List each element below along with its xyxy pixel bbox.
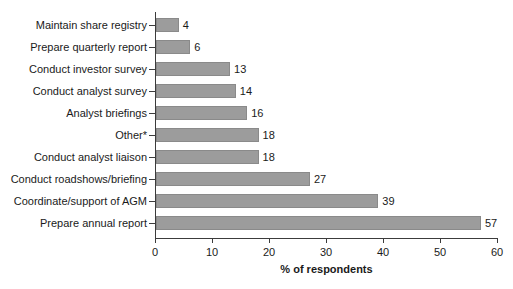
category-label: Maintain share registry [36,16,147,34]
bar [156,150,259,164]
x-axis-title: % of respondents [155,263,498,275]
category-label: Prepare quarterly report [30,38,147,56]
category-label: Prepare annual report [40,214,147,232]
bar [156,194,378,208]
category-label: Conduct analyst survey [33,82,147,100]
bar-row: Prepare annual report57 [0,216,513,230]
value-tick [383,238,384,243]
bar-row: Prepare quarterly report6 [0,40,513,54]
category-tick [149,201,155,202]
value-tick [212,238,213,243]
category-label: Conduct roadshows/briefing [11,170,147,188]
bar-value-label: 57 [485,214,497,232]
bar-value-label: 4 [183,16,189,34]
category-label: Conduct investor survey [29,60,147,78]
bar [156,40,190,54]
bar [156,62,230,76]
value-tick [155,238,156,243]
value-tick-label: 0 [135,245,175,259]
bar-row: Maintain share registry4 [0,18,513,32]
category-tick [149,69,155,70]
value-tick [269,238,270,243]
bar-value-label: 16 [251,104,263,122]
value-tick-label: 50 [420,245,460,259]
value-tick-label: 10 [192,245,232,259]
bar [156,128,259,142]
value-tick [497,238,498,243]
category-tick [149,135,155,136]
value-tick [326,238,327,243]
bar [156,172,310,186]
value-tick-label: 30 [306,245,346,259]
value-tick [440,238,441,243]
value-tick-label: 40 [363,245,403,259]
bar-row: Other*18 [0,128,513,142]
value-tick-label: 20 [249,245,289,259]
category-tick [149,179,155,180]
bar-row: Conduct roadshows/briefing27 [0,172,513,186]
category-tick [149,91,155,92]
category-tick [149,223,155,224]
bar-value-label: 18 [263,126,275,144]
bar [156,216,481,230]
category-label: Other* [115,126,147,144]
category-tick [149,113,155,114]
bar [156,106,247,120]
bar-value-label: 14 [240,82,252,100]
category-tick [149,157,155,158]
category-tick [149,25,155,26]
bar-value-label: 6 [194,38,200,56]
category-tick [149,47,155,48]
category-label: Conduct analyst liaison [34,148,147,166]
value-tick-label: 60 [477,245,513,259]
category-label: Analyst briefings [66,104,147,122]
category-label: Coordinate/support of AGM [14,192,147,210]
bar-row: Coordinate/support of AGM39 [0,194,513,208]
bar-row: Conduct investor survey13 [0,62,513,76]
bar-value-label: 27 [314,170,326,188]
bar [156,18,179,32]
bar-value-label: 18 [263,148,275,166]
bar-row: Analyst briefings16 [0,106,513,120]
bar [156,84,236,98]
bar-row: Conduct analyst survey14 [0,84,513,98]
plot-area: Maintain share registry4Prepare quarterl… [0,0,513,289]
bar-value-label: 13 [234,60,246,78]
bar-row: Conduct analyst liaison18 [0,150,513,164]
bar-chart: Maintain share registry4Prepare quarterl… [0,0,513,289]
bar-value-label: 39 [382,192,394,210]
